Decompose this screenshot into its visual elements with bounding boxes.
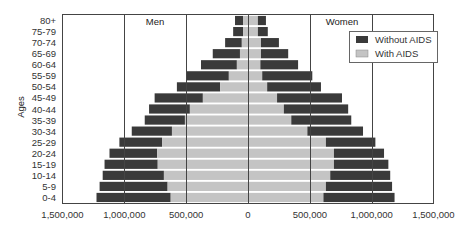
age-group-label: 65-69 bbox=[32, 48, 56, 59]
bar-women-with-aids bbox=[248, 193, 323, 202]
age-group-label: 35-39 bbox=[32, 115, 56, 126]
bar-women-with-aids bbox=[248, 138, 326, 147]
bar-women-without-aids bbox=[323, 193, 394, 202]
x-tick-label: 500,000 bbox=[293, 209, 327, 220]
legend-swatch-with-aids bbox=[356, 50, 368, 57]
legend-label-with-aids: With AIDS bbox=[375, 48, 418, 59]
bar-men-with-aids bbox=[242, 38, 248, 47]
bar-women-without-aids bbox=[267, 82, 321, 91]
bar-women-with-aids bbox=[248, 71, 262, 80]
bar-women-with-aids bbox=[248, 93, 277, 102]
bar-men-without-aids bbox=[109, 149, 157, 158]
x-tick-label: 1,500,000 bbox=[41, 209, 83, 220]
bar-women-without-aids bbox=[258, 27, 268, 36]
age-group-labels: 80+75-7970-7465-6960-6455-5950-5445-4940… bbox=[32, 15, 57, 203]
bar-women-with-aids bbox=[248, 149, 334, 158]
bar-women-with-aids bbox=[248, 27, 258, 36]
x-tick-label: 1,500,000 bbox=[412, 209, 454, 220]
bar-women-with-aids bbox=[248, 82, 267, 91]
bar-men-without-aids bbox=[149, 104, 190, 113]
bar-women-without-aids bbox=[261, 38, 279, 47]
age-group-label: 25-29 bbox=[32, 137, 56, 148]
bar-men-without-aids bbox=[103, 171, 164, 180]
bar-men-without-aids bbox=[225, 38, 242, 47]
bar-men-with-aids bbox=[220, 82, 248, 91]
bar-men-with-aids bbox=[162, 138, 248, 147]
bar-women-without-aids bbox=[262, 71, 312, 80]
bar-women-with-aids bbox=[248, 115, 291, 124]
bar-men-with-aids bbox=[243, 16, 248, 25]
age-group-label: 10-14 bbox=[32, 170, 56, 181]
bar-women-with-aids bbox=[248, 38, 261, 47]
bar-men-without-aids bbox=[186, 71, 229, 80]
age-group-label: 0-4 bbox=[42, 192, 56, 203]
x-tick-label: 500,000 bbox=[169, 209, 203, 220]
bar-women-without-aids bbox=[291, 115, 351, 124]
bar-women-with-aids bbox=[248, 49, 261, 58]
age-group-label: 5-9 bbox=[42, 181, 56, 192]
bar-women-with-aids bbox=[248, 60, 260, 69]
men-panel-label: Men bbox=[146, 16, 164, 27]
bar-women-without-aids bbox=[284, 104, 348, 113]
bar-men-with-aids bbox=[172, 127, 248, 136]
bar-men-without-aids bbox=[132, 127, 172, 136]
women-panel-label: Women bbox=[326, 16, 359, 27]
y-axis-title: Ages bbox=[15, 96, 26, 118]
bar-men-with-aids bbox=[190, 104, 248, 113]
bar-women-with-aids bbox=[248, 16, 258, 25]
bar-men-with-aids bbox=[243, 27, 248, 36]
bar-men-without-aids bbox=[201, 60, 237, 69]
age-group-label: 55-59 bbox=[32, 70, 56, 81]
age-group-label: 50-54 bbox=[32, 81, 56, 92]
bar-men-with-aids bbox=[168, 182, 248, 191]
bar-men-without-aids bbox=[119, 138, 162, 147]
bar-women-without-aids bbox=[307, 127, 363, 136]
bar-men-without-aids bbox=[233, 27, 243, 36]
legend: Without AIDS With AIDS bbox=[350, 32, 438, 63]
x-axis-tick-labels: 1,500,0001,000,000500,0000500,0001,000,0… bbox=[41, 209, 454, 220]
age-group-label: 40-44 bbox=[32, 104, 56, 115]
x-tick-label: 0 bbox=[245, 209, 250, 220]
legend-label-without-aids: Without AIDS bbox=[375, 34, 432, 45]
bar-men-with-aids bbox=[240, 49, 248, 58]
bar-men-with-aids bbox=[237, 60, 248, 69]
age-group-label: 45-49 bbox=[32, 92, 56, 103]
bar-women-with-aids bbox=[248, 182, 326, 191]
bar-men-without-aids bbox=[213, 49, 240, 58]
bar-men-with-aids bbox=[171, 193, 248, 202]
age-group-label: 70-74 bbox=[32, 37, 56, 48]
bar-men-with-aids bbox=[185, 115, 248, 124]
bar-men-with-aids bbox=[164, 171, 248, 180]
bar-women-with-aids bbox=[248, 171, 330, 180]
bar-men-without-aids bbox=[177, 82, 220, 91]
bar-men-without-aids bbox=[105, 160, 158, 169]
bar-women-without-aids bbox=[258, 16, 266, 25]
bar-women-without-aids bbox=[326, 182, 392, 191]
age-group-label: 15-19 bbox=[32, 159, 56, 170]
bar-men-with-aids bbox=[203, 93, 248, 102]
age-group-label: 60-64 bbox=[32, 59, 56, 70]
age-group-label: 75-79 bbox=[32, 26, 56, 37]
bar-men-without-aids bbox=[235, 16, 243, 25]
bar-men-with-aids bbox=[229, 71, 248, 80]
age-group-label: 30-34 bbox=[32, 126, 56, 137]
age-group-label: 80+ bbox=[40, 15, 57, 26]
bar-women-without-aids bbox=[260, 60, 298, 69]
bar-men-with-aids bbox=[158, 160, 248, 169]
bar-men-with-aids bbox=[157, 149, 248, 158]
bar-men-without-aids bbox=[97, 193, 171, 202]
bar-women-without-aids bbox=[261, 49, 288, 58]
population-pyramid-chart: 80+75-7970-7465-6960-6455-5950-5445-4940… bbox=[0, 0, 464, 233]
bar-men-without-aids bbox=[145, 115, 185, 124]
bar-women-with-aids bbox=[248, 127, 307, 136]
bar-women-with-aids bbox=[248, 160, 334, 169]
bar-men-without-aids bbox=[155, 93, 203, 102]
x-tick-label: 1,000,000 bbox=[103, 209, 145, 220]
bar-women-without-aids bbox=[334, 160, 388, 169]
bar-women-without-aids bbox=[330, 171, 390, 180]
bar-men-without-aids bbox=[100, 182, 168, 191]
age-group-label: 20-24 bbox=[32, 148, 56, 159]
x-tick-label: 1,000,000 bbox=[351, 209, 393, 220]
bar-women-without-aids bbox=[326, 138, 375, 147]
bar-women-with-aids bbox=[248, 104, 284, 113]
